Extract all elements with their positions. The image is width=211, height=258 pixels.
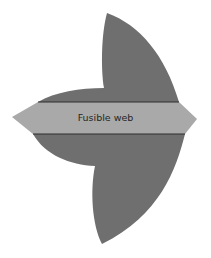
upper-fabric-lobe	[38, 13, 179, 102]
fusible-web-label: Fusible web	[0, 111, 211, 125]
fusible-web-diagram	[0, 0, 211, 258]
lower-fabric-lobe	[33, 134, 185, 244]
